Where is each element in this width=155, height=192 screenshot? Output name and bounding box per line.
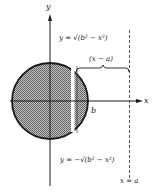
line-label: x = a: [120, 178, 138, 185]
white-strip: [71, 68, 75, 132]
x-axis-label: x: [144, 97, 149, 105]
x-axis-arrow-icon: [136, 99, 143, 103]
brace: [76, 65, 129, 72]
lower-curve-label: y = −√(b² − x²): [60, 157, 114, 164]
radius-label: b: [91, 107, 96, 115]
y-axis-label: y: [46, 3, 51, 11]
y-axis-arrow-icon: [48, 14, 52, 21]
upper-curve-label: y = √(b² − x²): [59, 35, 108, 42]
brace-label: (x − a): [89, 56, 113, 63]
